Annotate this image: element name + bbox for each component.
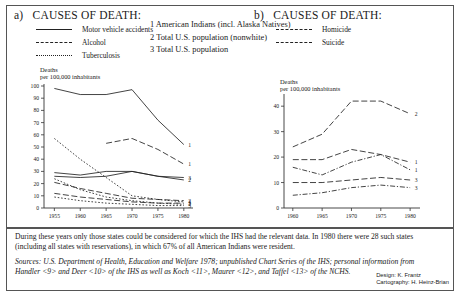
svg-text:90: 90: [33, 95, 39, 101]
svg-text:0: 0: [276, 205, 279, 211]
svg-text:1975: 1975: [375, 213, 386, 219]
legend-item-label: Tuberculosis: [82, 51, 120, 60]
svg-text:40: 40: [33, 156, 39, 162]
svg-text:30: 30: [273, 129, 279, 135]
svg-text:100: 100: [31, 83, 40, 89]
svg-text:1960: 1960: [287, 213, 298, 219]
legend-item: Alcohol: [36, 37, 153, 48]
credit-cartography: Cartography: H. Heinz-Brian: [376, 279, 449, 286]
svg-text:1: 1: [415, 159, 418, 165]
legend-item-label: Suicide: [322, 38, 344, 47]
series-number-key: 1 American Indians (incl. Alaska Natives…: [150, 19, 290, 57]
svg-text:80: 80: [33, 107, 39, 113]
svg-text:60: 60: [33, 132, 39, 138]
panel-a-label: a): [14, 9, 23, 21]
svg-text:10: 10: [33, 193, 39, 199]
panel-a-title: a) CAUSES OF DEATH:: [14, 9, 141, 21]
svg-text:1980: 1980: [178, 213, 189, 219]
legend-panel-a: Motor vehicle accidents Alcohol Tubercul…: [36, 24, 153, 63]
svg-text:1970: 1970: [346, 213, 357, 219]
chart-a-plot: 0102030405060708090100195519601965197019…: [14, 66, 226, 224]
svg-text:20: 20: [33, 181, 39, 187]
svg-text:50: 50: [33, 144, 39, 150]
svg-text:40: 40: [273, 103, 279, 109]
legend-item-label: Alcohol: [82, 38, 106, 47]
svg-text:1: 1: [188, 161, 191, 167]
svg-text:0: 0: [36, 205, 39, 211]
svg-text:1975: 1975: [152, 213, 163, 219]
line-style-dash-icon: [36, 39, 72, 46]
line-style-dot-icon: [36, 52, 72, 59]
axis-caption-line2: per 100,000 inhabitants: [280, 85, 340, 92]
svg-text:1980: 1980: [405, 213, 416, 219]
axis-caption-line2: per 100,000 inhabitants: [40, 73, 100, 80]
svg-text:1955: 1955: [49, 213, 60, 219]
svg-text:3: 3: [415, 185, 418, 191]
legend-item-label: Homicide: [322, 25, 351, 34]
svg-text:3: 3: [188, 175, 191, 181]
credit-design: Design: K. Frantz: [376, 272, 449, 279]
line-style-solid-icon: [36, 26, 72, 33]
key-item-3: 3 Total U.S. population: [150, 44, 290, 57]
chart-b-axis-caption: Deaths per 100,000 inhabitants: [280, 78, 340, 93]
svg-text:30: 30: [33, 168, 39, 174]
footnote-note: During these years only those states cou…: [15, 232, 439, 251]
svg-text:2: 2: [415, 111, 418, 117]
chart-a-axis-caption: Deaths per 100,000 inhabitants: [40, 66, 100, 81]
svg-text:1: 1: [415, 167, 418, 173]
key-item-2: 2 Total U.S. population (nonwhite): [150, 32, 290, 45]
axis-caption-line1: Deaths: [40, 66, 100, 73]
chart-b: Deaths per 100,000 inhabitants 010203040…: [254, 66, 450, 224]
svg-text:1960: 1960: [75, 213, 86, 219]
axis-caption-line1: Deaths: [280, 78, 340, 85]
legend-item: Motor vehicle accidents: [36, 24, 153, 35]
figure-page: a) CAUSES OF DEATH: b) CAUSES OF DEATH: …: [0, 0, 460, 294]
key-item-1: 1 American Indians (incl. Alaska Natives…: [150, 19, 290, 32]
svg-text:3: 3: [188, 203, 191, 209]
credits-block: Design: K. Frantz Cartography: H. Heinz-…: [376, 272, 449, 286]
svg-text:3: 3: [415, 177, 418, 183]
svg-text:20: 20: [273, 154, 279, 160]
svg-text:70: 70: [33, 120, 39, 126]
svg-text:1: 1: [188, 142, 191, 148]
svg-text:1965: 1965: [101, 213, 112, 219]
legend-item-label: Motor vehicle accidents: [82, 25, 153, 34]
svg-text:10: 10: [273, 180, 279, 186]
svg-text:1965: 1965: [317, 213, 328, 219]
legend-item: Tuberculosis: [36, 50, 153, 61]
panel-a-heading: CAUSES OF DEATH:: [33, 9, 142, 21]
svg-text:1970: 1970: [126, 213, 137, 219]
chart-a: Deaths per 100,000 inhabitants 010203040…: [14, 66, 226, 224]
